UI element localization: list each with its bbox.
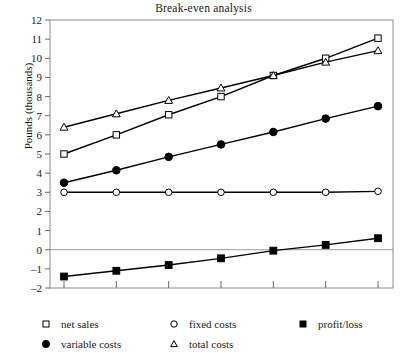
data-point [270,128,278,136]
y-axis-tick-label: 3 [37,186,43,198]
y-axis-tick-label: 4 [37,167,43,179]
filled-square-icon [297,318,309,330]
legend-label-variable-costs: variable costs [61,338,121,350]
data-point [270,189,277,196]
series-variable-costs [60,102,382,186]
data-point [165,262,172,269]
series-profit-loss [61,235,382,280]
open-triangle-icon [168,338,180,350]
legend-label-total-costs: total costs [189,338,233,350]
data-point [374,47,382,54]
y-axis-tick-label: 9 [37,71,43,83]
data-point [113,166,121,174]
data-point [61,273,68,280]
data-point [217,141,225,149]
open-square-icon [40,318,52,330]
data-point [375,35,381,41]
legend-label-net-sales: net sales [61,318,99,330]
plot-area: –2–10123456789101112 [0,0,407,353]
chart-legend: net sales fixed costs profit/loss var [0,314,407,353]
legend-item-profit-loss[interactable]: profit/loss [297,314,363,333]
data-point [61,189,68,196]
data-point [113,189,120,196]
y-axis-tick-label: –1 [30,263,42,275]
series-net-sales [61,35,381,157]
data-point [113,267,120,274]
data-point [165,189,172,196]
legend-item-fixed-costs[interactable]: fixed costs [168,314,236,333]
data-point [270,247,277,254]
data-point [165,112,171,118]
data-point [218,93,224,99]
y-axis-tick-label: 12 [31,14,42,26]
data-point [375,235,382,242]
y-axis-tick-label: 1 [37,225,43,237]
legend-item-net-sales[interactable]: net sales [40,314,99,333]
y-axis-tick-label: 0 [37,244,43,256]
data-point [61,151,67,157]
data-point [165,153,173,161]
y-axis-tick-label: 10 [31,52,43,64]
data-point [218,255,225,262]
series-fixed-costs [61,188,382,196]
legend-row-2: variable costs total costs [0,334,407,353]
y-axis-tick-label: 7 [37,110,43,122]
legend-label-fixed-costs: fixed costs [189,318,236,330]
y-axis-tick-label: 2 [37,205,43,217]
data-point [322,115,330,123]
data-point [375,188,382,195]
open-circle-icon [168,318,180,330]
data-point [60,179,68,187]
y-axis-tick-label: 5 [37,148,43,160]
y-axis-tick-label: 8 [37,91,43,103]
chart-figure: Break-even analysis Pounds (thousands) –… [0,0,407,353]
legend-label-profit-loss: profit/loss [318,318,363,330]
series-total-costs [60,47,382,130]
y-axis-tick-label: –2 [30,282,42,294]
legend-item-variable-costs[interactable]: variable costs [40,334,121,353]
y-axis-tick-label: 6 [37,129,43,141]
legend-item-total-costs[interactable]: total costs [168,334,233,353]
data-point [218,189,225,196]
data-point [113,132,119,138]
data-point [322,189,329,196]
plot-frame [50,20,393,288]
data-point [322,242,329,249]
legend-row-1: net sales fixed costs profit/loss [0,314,407,333]
data-point [374,102,382,110]
filled-circle-icon [40,338,52,350]
y-axis-tick-label: 11 [31,33,42,45]
